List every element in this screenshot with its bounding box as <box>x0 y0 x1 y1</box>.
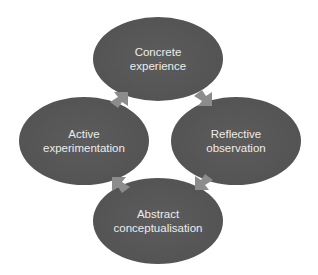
node-label-line1: Concrete <box>130 45 186 59</box>
node-label-line2: experimentation <box>43 141 125 155</box>
node-label-line2: experience <box>130 59 186 73</box>
arrow-up-right-icon <box>108 88 132 110</box>
node-label-line1: Abstract <box>114 207 203 221</box>
node-label-line1: Active <box>43 127 125 141</box>
arrow-down-left-icon <box>191 172 215 194</box>
arrow-up-left-icon <box>108 173 132 195</box>
node-label-line2: observation <box>206 141 265 155</box>
node-active-experimentation: Active experimentation <box>19 97 149 185</box>
node-label-line2: conceptualisation <box>114 221 203 235</box>
arrow-down-right-icon <box>192 88 216 110</box>
node-label-line1: Reflective <box>206 127 265 141</box>
learning-cycle-diagram: Concrete experience Reflective observati… <box>0 0 318 275</box>
